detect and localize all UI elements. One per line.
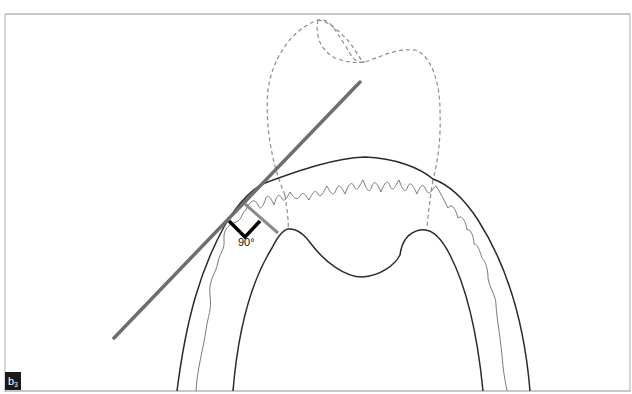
right-angle-marker — [229, 221, 260, 237]
tangent-line — [114, 82, 360, 338]
perpendicular-segment — [245, 204, 278, 233]
figure-frame — [5, 14, 630, 392]
wavy-cortical-line — [196, 180, 507, 391]
panel-label-subscript: 3 — [14, 381, 18, 388]
panel-label: b3 — [5, 372, 21, 390]
inner-sinus-contour — [233, 229, 483, 391]
outer-ridge-contour — [177, 157, 530, 391]
angle-label: 90° — [238, 236, 255, 248]
dashed-crown-outline — [267, 20, 440, 230]
diagram-canvas — [0, 0, 632, 394]
